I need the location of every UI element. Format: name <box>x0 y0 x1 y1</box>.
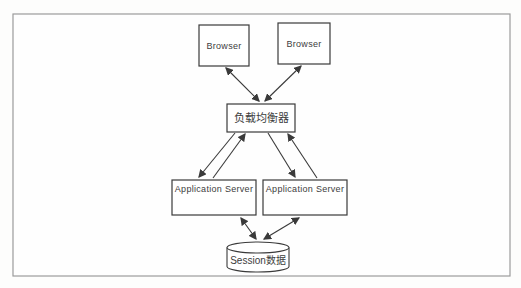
node-app-server-left: Application Server <box>172 180 256 215</box>
node-load-balancer: 负载均衡器 <box>227 104 295 132</box>
session-store-label: Session数据 <box>230 254 286 266</box>
browser-left-label: Browser <box>206 41 241 51</box>
diagram-border <box>13 14 510 276</box>
diagram-page: Browser Browser 负载均衡器 Application Server… <box>0 0 521 288</box>
node-session-store: Session数据 <box>227 242 289 272</box>
load-balancer-label: 负载均衡器 <box>234 111 289 124</box>
architecture-diagram: Browser Browser 负载均衡器 Application Server… <box>0 0 521 288</box>
node-browser-left: Browser <box>199 25 249 66</box>
browser-right-label: Browser <box>286 39 321 49</box>
app-server-right-label: Application Server <box>266 184 344 194</box>
node-browser-right: Browser <box>278 23 330 64</box>
app-server-left-label: Application Server <box>175 184 253 194</box>
session-store-cylinder-top <box>227 242 289 253</box>
node-app-server-right: Application Server <box>263 180 347 215</box>
